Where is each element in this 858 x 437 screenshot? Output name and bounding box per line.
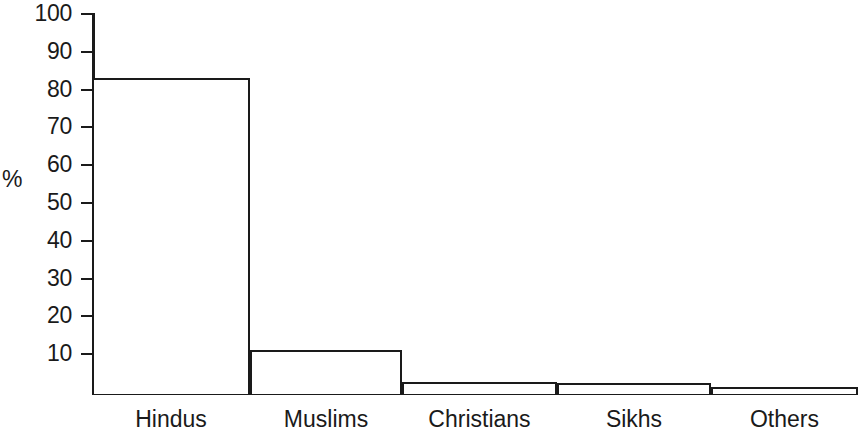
x-axis-category-label: Christians: [402, 406, 557, 432]
bar-chart: % 100908070605040302010 HindusMuslimsChr…: [0, 0, 858, 437]
bar[interactable]: [711, 387, 858, 394]
x-axis-category-label: Hindus: [92, 406, 250, 432]
x-axis-category-label: Muslims: [250, 406, 402, 432]
bar[interactable]: [250, 350, 402, 394]
bar[interactable]: [557, 383, 711, 394]
bar[interactable]: [402, 382, 557, 394]
bars-layer: [0, 0, 858, 437]
x-axis-category-label: Others: [711, 406, 858, 432]
x-axis-category-label: Sikhs: [557, 406, 711, 432]
bar[interactable]: [92, 78, 250, 394]
